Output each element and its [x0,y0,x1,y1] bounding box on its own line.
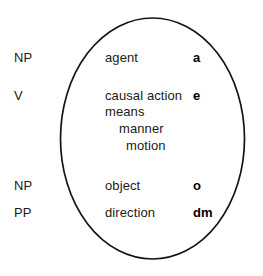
slot-name-agent: agent [105,50,138,65]
row-category-np-object: NP [14,178,32,193]
row-category-v-causal-action: V [14,88,23,103]
diagram-canvas: NP agent a V causal action e means manne… [0,0,263,276]
row-category-pp-direction: PP [14,205,32,220]
slot-variable-direction: dm [193,205,213,220]
slot-variable-agent: a [193,50,200,65]
slot-variable-causal-action: e [193,88,200,103]
sub-slot-means: means [105,104,145,119]
slot-variable-object: o [193,178,201,193]
slot-name-causal-action: causal action [105,88,182,103]
sub-slot-manner: manner [119,121,164,136]
row-category-np-agent: NP [14,50,32,65]
slot-name-object: object [105,178,140,193]
slot-name-direction: direction [105,205,155,220]
sub-slot-motion: motion [126,138,166,153]
